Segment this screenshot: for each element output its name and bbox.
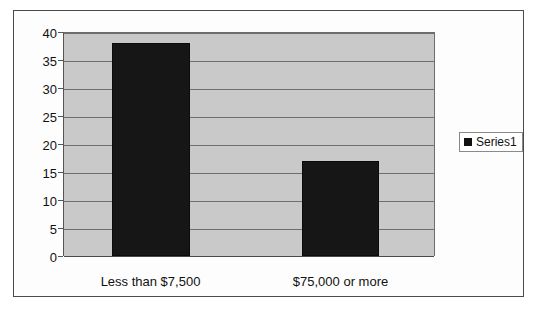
y-tick-label: 0: [50, 251, 57, 264]
bar-less-than-7500[interactable]: [112, 43, 190, 256]
chart-frame: 40 35 30 25 20 15 10 5 0: [13, 10, 524, 297]
legend-swatch-icon: [464, 138, 472, 146]
y-tick-label: 40: [43, 27, 57, 40]
chart-figure: 40 35 30 25 20 15 10 5 0: [0, 0, 538, 313]
y-tick-label: 20: [43, 139, 57, 152]
y-tick-label: 30: [43, 83, 57, 96]
y-tick-label: 25: [43, 111, 57, 124]
y-tick-label: 35: [43, 55, 57, 68]
legend-label-series1: Series1: [476, 136, 517, 148]
y-tick-label: 15: [43, 167, 57, 180]
plot-area: [63, 32, 435, 256]
y-tick-label: 5: [50, 223, 57, 236]
y-tick-label: 10: [43, 195, 57, 208]
chart-legend[interactable]: Series1: [459, 132, 523, 152]
y-axis-tick-labels: 40 35 30 25 20 15 10 5 0: [24, 32, 57, 256]
gridline: [64, 33, 434, 34]
y-tick-mark: [58, 256, 63, 257]
x-tick-label-75000-or-more: $75,000 or more: [253, 275, 428, 288]
x-tick-label-less-than-7500: Less than $7,500: [63, 275, 238, 288]
x-axis-tick-labels: Less than $7,500 $75,000 or more: [63, 265, 435, 295]
x-axis-baseline: [64, 256, 434, 257]
bar-75000-or-more[interactable]: [302, 161, 379, 256]
